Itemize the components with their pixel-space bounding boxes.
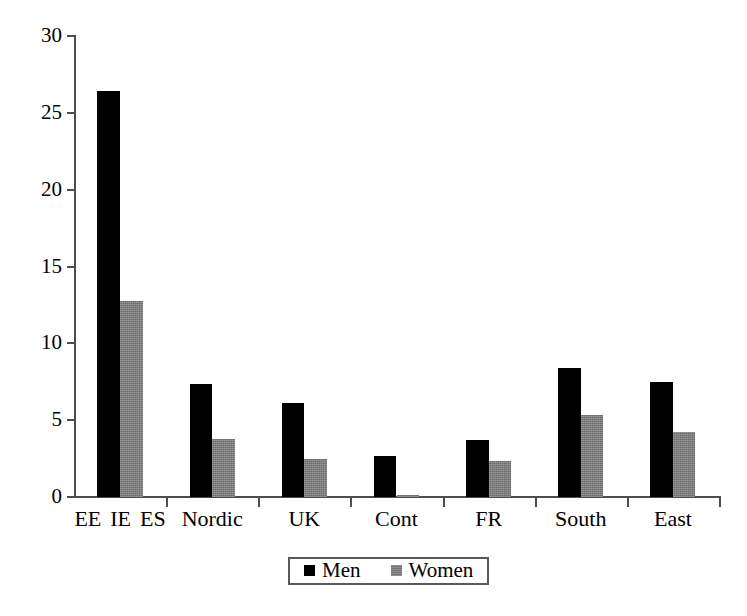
bar-women [304,459,327,497]
bar-men [558,368,581,497]
x-axis-sublabel: ES [140,506,166,532]
bar-men [374,456,397,497]
x-axis-category-label: East [627,506,719,532]
bar-men [282,403,305,498]
legend-label: Women [409,560,474,581]
y-axis-tick-label: 30 [0,25,62,46]
legend: MenWomen [288,557,489,585]
x-axis-category-label: Cont [350,506,442,532]
y-axis-tick-label: 0 [0,486,62,507]
x-axis-sublabel: EE [74,506,101,532]
y-axis-tick-label: 10 [0,332,62,353]
bar-women [397,495,420,497]
y-axis-tick-label: 20 [0,179,62,200]
bar-men [650,382,673,497]
bar-women [489,461,512,497]
plot-area [74,36,719,497]
legend-item-men: Men [304,560,361,581]
x-axis-tick [719,498,721,507]
bar-men [190,384,213,497]
y-axis-tick-label: 25 [0,102,62,123]
y-axis-tick-label: 15 [0,256,62,277]
x-axis-category-label: EEIEES [74,506,166,532]
bar-women [581,415,604,497]
y-axis-tick-label: 5 [0,409,62,430]
legend-swatch-men-icon [304,565,315,576]
bar-women [673,432,696,497]
x-axis-category-label: Nordic [166,506,258,532]
bar-women [212,439,235,497]
bar-men [466,440,489,497]
x-axis-category-label: South [535,506,627,532]
bar-men [97,91,120,497]
x-axis-sublabel: IE [110,506,131,532]
x-axis-category-label: UK [258,506,350,532]
legend-item-women: Women [391,560,474,581]
x-axis-category-label: FR [443,506,535,532]
legend-swatch-women-icon [391,565,402,576]
legend-label: Men [322,560,361,581]
bar-chart: 051015202530 EEIEESNordicUKContFRSouthEa… [0,0,747,616]
bar-women [120,301,143,497]
